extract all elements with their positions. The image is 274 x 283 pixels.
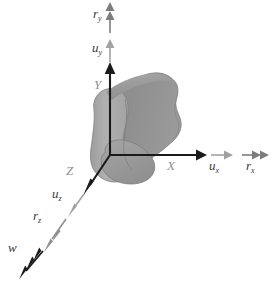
u-x-label-sub: x: [216, 166, 220, 175]
r-x-label-sub: x: [251, 166, 255, 175]
r-y-label: ry: [93, 7, 102, 20]
r-z-arrowhead-1: [52, 228, 61, 242]
diagram-svg: [0, 0, 274, 283]
r-x-arrowhead-2: [260, 151, 269, 160]
r-y-arrow: [106, 2, 115, 33]
y-axis-label: Y: [94, 78, 101, 91]
u-y-label: uy: [92, 41, 102, 54]
r-z-arrow: [44, 219, 66, 252]
w-label: w: [8, 241, 17, 254]
u-x-label: ux: [209, 159, 219, 172]
clipped-caption-strip: [0, 275, 274, 283]
u-z-arrow: [68, 194, 84, 217]
u-z-label: uz: [52, 187, 62, 200]
u-z-label-base: u: [52, 186, 59, 201]
u-z-label-sub: z: [59, 194, 62, 203]
y-axis-arrowhead: [105, 62, 116, 74]
u-y-arrow: [106, 39, 115, 62]
x-axis-label: X: [167, 159, 175, 172]
u-y-arrowhead: [106, 39, 115, 48]
x-axis-arrowhead: [196, 150, 207, 161]
r-z-label-sub: z: [38, 216, 41, 225]
r-y-arrowhead-1: [106, 11, 115, 20]
u-y-label-base: u: [92, 40, 99, 55]
z-axis-label: Z: [66, 164, 73, 177]
w-label-base: w: [8, 240, 17, 255]
u-y-label-sub: y: [99, 48, 103, 57]
u-x-label-base: u: [209, 158, 216, 173]
figure-canvas: Y X Z ux rx uy ry uz rz w: [0, 0, 274, 283]
w-shaft: [26, 251, 43, 271]
r-y-label-sub: y: [98, 14, 102, 23]
r-y-arrowhead-2: [106, 2, 115, 11]
r-z-shaft: [52, 219, 66, 239]
r-z-label: rz: [33, 209, 41, 222]
u-x-arrowhead: [224, 151, 233, 160]
u-z-arrowhead: [68, 203, 77, 217]
r-z-arrowhead-2: [44, 239, 53, 252]
z-axis-arrowhead: [83, 178, 94, 196]
r-x-label: rx: [246, 159, 255, 172]
